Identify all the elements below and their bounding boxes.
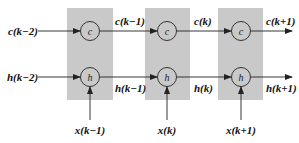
h-label-k: h(k) [194, 82, 213, 95]
h-label-k+1: h(k+1) [266, 82, 297, 95]
x-label-k+1: x(k+1) [225, 124, 256, 137]
x-label-k: x(k) [157, 124, 176, 137]
c-label-k: c(k) [194, 15, 212, 28]
lstm-diagram: c c c h h h c(k−2) c(k−1) c(k) c(k+1) h(… [0, 0, 299, 143]
c-node-1-label: c [88, 26, 93, 37]
c-label-k+1: c(k+1) [266, 15, 295, 28]
x-label-k-1: x(k−1) [74, 124, 106, 137]
c-label-k-1: c(k−1) [115, 15, 145, 28]
h-node-1-label: h [88, 72, 93, 83]
c-node-3-label: c [239, 26, 244, 37]
h-label-k-2: h(k−2) [7, 71, 38, 84]
c-node-2-label: c [165, 26, 170, 37]
h-node-2-label: h [165, 72, 170, 83]
c-label-k-2: c(k−2) [8, 25, 38, 38]
h-label-k-1: h(k−1) [115, 82, 146, 95]
h-node-3-label: h [239, 72, 244, 83]
